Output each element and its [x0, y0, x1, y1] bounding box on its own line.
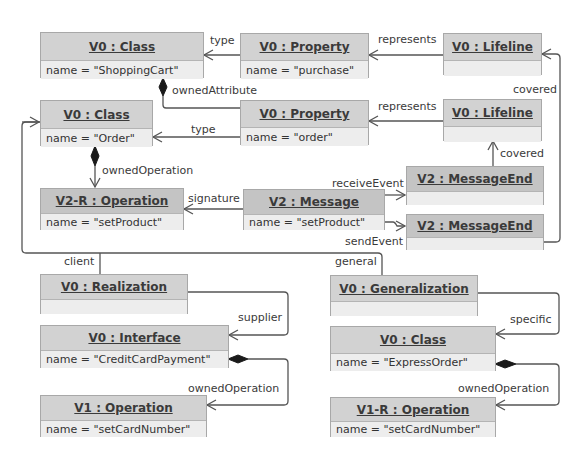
- composition-diamond-icon: [91, 146, 99, 166]
- object-title: V0 : Lifeline: [444, 100, 541, 127]
- link-label-general: general: [335, 256, 377, 268]
- object-attribute: [407, 238, 543, 250]
- link-label-supplier: supplier: [238, 312, 282, 324]
- object-title: V0 : Realization: [41, 275, 187, 300]
- object-title: V0 : Class: [41, 101, 152, 129]
- object-attribute: name = "setProduct": [244, 215, 384, 230]
- object-title: V0 : Class: [41, 33, 203, 61]
- object-attribute: name = "CreditCardPayment": [41, 351, 228, 368]
- object-property-purchase[interactable]: V0 : Property name = "purchase": [240, 33, 369, 78]
- link-owned-attribute[interactable]: [163, 96, 240, 108]
- object-class-shoppingcart[interactable]: V0 : Class name = "ShoppingCart": [40, 32, 204, 78]
- link-label-receive-event: receiveEvent: [332, 178, 404, 190]
- object-attribute: [444, 61, 541, 76]
- object-messageend-send[interactable]: V2 : MessageEnd: [406, 214, 544, 250]
- link-label-represents: represents: [378, 101, 437, 113]
- object-title: V1-R : Operation: [331, 398, 495, 422]
- object-title: V0 : Property: [241, 34, 368, 61]
- object-attribute: [331, 302, 477, 316]
- object-lifeline-2[interactable]: V0 : Lifeline: [443, 99, 542, 141]
- object-title: V2-R : Operation: [41, 189, 183, 214]
- object-realization[interactable]: V0 : Realization: [40, 274, 188, 314]
- object-class-expressorder[interactable]: V0 : Class name = "ExpressOrder": [330, 326, 496, 371]
- object-attribute: name = "Order": [41, 129, 152, 147]
- object-title: V0 : Class: [331, 327, 495, 354]
- link-label-type: type: [210, 35, 235, 47]
- object-attribute: name = "setCardNumber": [41, 421, 206, 437]
- object-attribute: name = "setProduct": [41, 214, 183, 230]
- object-title: V0 : Interface: [41, 326, 228, 351]
- link-label-covered: covered: [513, 84, 557, 96]
- object-title: V2 : MessageEnd: [407, 167, 543, 192]
- object-title: V0 : Lifeline: [444, 34, 541, 61]
- object-attribute: [407, 192, 543, 205]
- object-attribute: name = "ExpressOrder": [331, 354, 495, 371]
- link-label-owned-operation: ownedOperation: [458, 383, 549, 395]
- object-attribute: [41, 300, 187, 314]
- link-label-owned-operation: ownedOperation: [102, 165, 193, 177]
- link-label-send-event: sendEvent: [345, 236, 403, 248]
- object-title: V1 : Operation: [41, 396, 206, 421]
- object-messageend-receive[interactable]: V2 : MessageEnd: [406, 166, 544, 205]
- object-attribute: [444, 127, 541, 142]
- link-label-covered: covered: [500, 148, 544, 160]
- link-send-event[interactable]: [385, 222, 405, 226]
- link-label-owned-operation: ownedOperation: [188, 383, 279, 395]
- composition-diamond-icon: [495, 360, 516, 368]
- link-label-owned-attribute: ownedAttribute: [172, 85, 257, 97]
- object-attribute: name = "order": [241, 128, 368, 146]
- composition-diamond-icon: [228, 355, 248, 363]
- object-message-setproduct[interactable]: V2 : Message name = "setProduct": [243, 189, 385, 230]
- link-label-type: type: [191, 124, 216, 136]
- object-operation-setproduct[interactable]: V2-R : Operation name = "setProduct": [40, 188, 184, 230]
- link-label-represents: represents: [378, 34, 437, 46]
- composition-diamond-icon: [159, 78, 167, 96]
- object-interface-creditcard[interactable]: V0 : Interface name = "CreditCardPayment…: [40, 325, 229, 368]
- object-operation-setcardnumber-v1r[interactable]: V1-R : Operation name = "setCardNumber": [330, 397, 496, 437]
- object-title: V0 : Property: [241, 101, 368, 128]
- object-operation-setcardnumber-v1[interactable]: V1 : Operation name = "setCardNumber": [40, 395, 207, 437]
- object-attribute: name = "purchase": [241, 61, 368, 79]
- object-title: V0 : Generalization: [331, 276, 477, 302]
- object-title: V2 : Message: [244, 190, 384, 215]
- link-label-client: client: [64, 256, 94, 268]
- object-class-order[interactable]: V0 : Class name = "Order": [40, 100, 153, 146]
- object-attribute: name = "ShoppingCart": [41, 61, 203, 79]
- object-lifeline-1[interactable]: V0 : Lifeline: [443, 33, 542, 75]
- object-attribute: name = "setCardNumber": [331, 422, 495, 437]
- object-property-order[interactable]: V0 : Property name = "order": [240, 100, 369, 145]
- link-label-signature: signature: [188, 193, 240, 205]
- object-generalization[interactable]: V0 : Generalization: [330, 275, 478, 316]
- link-label-specific: specific: [510, 314, 552, 326]
- object-title: V2 : MessageEnd: [407, 215, 543, 238]
